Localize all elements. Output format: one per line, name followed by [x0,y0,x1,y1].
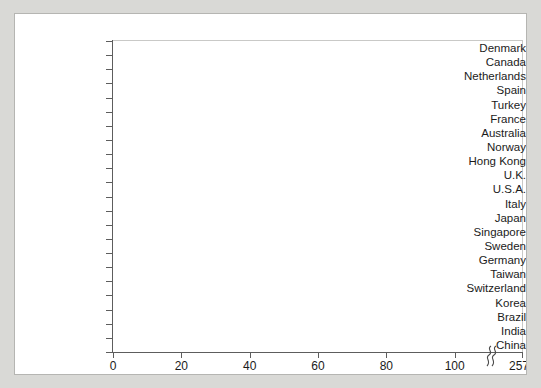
category-label: Australia [438,127,526,139]
category-label: Denmark [438,42,526,54]
bar-row [113,199,188,208]
x-axis-tick [250,353,251,358]
y-axis-tick [106,211,112,212]
x-axis-tick [455,353,456,358]
y-axis-tick [106,69,112,70]
bar-row [113,114,152,123]
x-axis-tick [318,353,319,358]
y-axis-tick [106,267,112,268]
chart-figure: DenmarkCanadaNetherlandsSpainTurkeyFranc… [14,13,527,375]
category-label: Germany [438,254,526,266]
x-axis-tick-label: 40 [243,359,256,373]
y-axis-tick [106,352,112,353]
bar-row [113,242,219,251]
bar-row [113,185,178,194]
category-label: Hong Kong [438,155,526,167]
y-axis-tick [106,168,112,169]
x-axis-tick-label: 20 [175,359,188,373]
y-axis-tick [106,295,112,296]
bar-row [113,129,154,138]
category-label: Norway [438,141,526,153]
category-label: U.S.A. [438,183,526,195]
bar-row [113,171,175,180]
bar-row [113,298,366,307]
bar-row [113,58,140,67]
category-label: Switzerland [438,282,526,294]
bar-row [113,213,212,222]
plot-frame-top [113,40,523,41]
y-axis-tick [106,253,112,254]
y-axis-tick [106,126,112,127]
category-label: Japan [438,212,526,224]
y-axis-tick [106,225,112,226]
y-axis-tick [106,310,112,311]
y-axis-tick [106,182,112,183]
y-axis-tick [106,338,112,339]
x-axis-tick-label: 100 [445,359,465,373]
category-label: Netherlands [438,70,526,82]
y-axis-tick [106,98,112,99]
y-axis-tick [106,154,112,155]
x-axis-label-max-value: 257 [509,359,527,373]
bar-row [113,44,134,53]
x-axis-tick [181,353,182,358]
category-label: Italy [438,198,526,210]
x-axis-tick-label: 60 [311,359,324,373]
x-axis-tick [386,353,387,358]
bar-row [113,100,151,109]
x-axis-tick [113,353,114,358]
x-axis-tick-broken-end [522,353,523,358]
y-axis-tick [106,112,112,113]
bar-row [113,86,149,95]
category-label: France [438,113,526,125]
bar-row [113,228,216,237]
category-label: Turkey [438,99,526,111]
y-axis-tick [106,281,112,282]
y-axis-tick [106,140,112,141]
category-label: Canada [438,56,526,68]
bar-row [113,256,219,265]
y-axis-tick [106,83,112,84]
bar-row [113,143,157,152]
y-axis-tick [106,324,112,325]
bar-row [113,72,149,81]
y-axis-tick [106,197,112,198]
category-label: Spain [438,84,526,96]
bar-row [113,157,175,166]
category-label: Korea [438,297,526,309]
x-axis-tick-label: 0 [110,359,117,373]
x-axis-tick-label: 80 [380,359,393,373]
category-label: Singapore [438,226,526,238]
category-label: U.K. [438,169,526,181]
category-label: Sweden [438,240,526,252]
category-label: Taiwan [438,268,526,280]
bar-row [113,312,383,321]
y-axis-tick [106,55,112,56]
y-axis-tick [106,239,112,240]
category-label: India [438,325,526,337]
y-axis-tick [106,41,112,42]
bar-row [113,284,233,293]
bar-row [113,270,219,279]
category-label: Brazil [438,311,526,323]
bar-row [113,326,438,335]
axis-break-icon [482,345,502,367]
